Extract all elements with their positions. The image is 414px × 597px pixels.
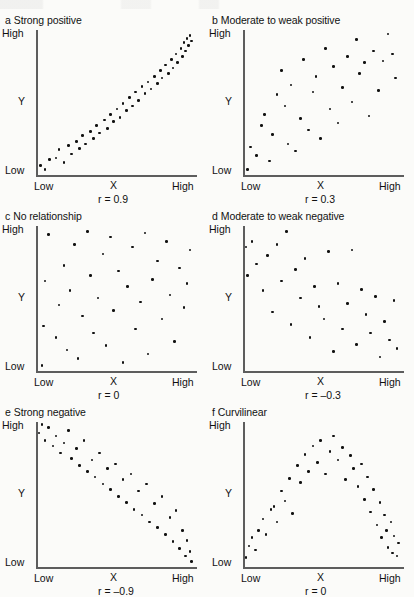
- data-point: [122, 361, 125, 364]
- data-point: [84, 143, 87, 146]
- data-point: [304, 257, 307, 260]
- data-point: [173, 340, 176, 343]
- data-point: [337, 122, 340, 125]
- y-axis-name: Y: [225, 488, 232, 499]
- data-point: [180, 47, 183, 50]
- data-point: [313, 285, 316, 288]
- data-point: [393, 299, 396, 302]
- data-point: [165, 240, 168, 243]
- data-point: [294, 268, 297, 271]
- x-axis-high-label: High: [172, 573, 194, 584]
- data-point: [315, 75, 318, 78]
- y-axis-high-label: High: [209, 420, 231, 431]
- data-point: [63, 161, 66, 164]
- data-point: [391, 53, 394, 56]
- data-point: [161, 495, 164, 498]
- y-axis-high-label: High: [2, 28, 24, 39]
- data-point: [355, 343, 358, 346]
- data-point: [290, 323, 293, 326]
- data-point: [376, 524, 379, 527]
- data-point: [397, 542, 400, 545]
- data-point: [78, 147, 81, 150]
- data-point: [299, 117, 302, 120]
- data-point: [391, 552, 394, 555]
- panel-title-text: No relationship: [13, 210, 82, 222]
- data-point: [164, 533, 167, 536]
- data-point: [271, 133, 274, 136]
- data-point: [246, 274, 249, 277]
- data-point: [153, 75, 156, 78]
- plot-area-b: [243, 30, 403, 175]
- data-point: [105, 344, 108, 347]
- data-point: [131, 246, 134, 249]
- data-point: [122, 102, 125, 105]
- data-point: [263, 113, 266, 116]
- data-point: [139, 301, 142, 304]
- x-axis-name: X: [110, 572, 117, 583]
- data-point: [109, 113, 112, 116]
- panel-letter-d: d: [212, 210, 218, 222]
- y-axis-low-label: Low: [212, 361, 231, 372]
- data-point: [249, 146, 252, 149]
- data-point: [390, 521, 393, 524]
- panel-title-e: eStrong negative: [5, 406, 86, 418]
- data-point: [383, 514, 386, 517]
- data-point: [66, 349, 69, 352]
- data-point: [341, 328, 344, 331]
- data-point: [396, 347, 399, 350]
- data-point: [302, 58, 305, 61]
- data-point: [161, 318, 164, 321]
- data-point: [150, 88, 153, 91]
- data-point: [137, 99, 140, 102]
- x-axis-low-label: Low: [241, 573, 260, 584]
- data-point: [161, 77, 164, 80]
- y-axis-low-label: Low: [5, 361, 24, 372]
- data-point: [147, 81, 150, 84]
- data-point: [169, 516, 172, 519]
- data-point: [137, 490, 140, 493]
- data-point: [128, 96, 131, 99]
- data-point: [287, 143, 290, 146]
- panel-title-b: bModerate to weak positive: [212, 14, 340, 26]
- data-point: [181, 529, 184, 532]
- data-point: [383, 320, 386, 323]
- data-point: [332, 435, 335, 438]
- data-point: [83, 439, 86, 442]
- data-point: [178, 547, 181, 550]
- panel-title-d: dModerate to weak negative: [212, 210, 344, 222]
- plot-area-f: [243, 422, 403, 567]
- data-point: [276, 521, 279, 524]
- x-axis-low-label: Low: [241, 181, 260, 192]
- data-point: [349, 454, 352, 457]
- data-point: [387, 546, 390, 549]
- data-point: [69, 289, 72, 292]
- y-axis-high-label: High: [2, 420, 24, 431]
- data-point: [329, 108, 332, 111]
- y-axis-high-label: High: [209, 224, 231, 235]
- data-point: [189, 550, 192, 553]
- data-point: [393, 535, 396, 538]
- data-point: [374, 295, 377, 298]
- data-point: [288, 477, 291, 480]
- panel-title-text: Moderate to weak negative: [221, 210, 345, 222]
- data-point: [285, 230, 288, 233]
- data-point: [255, 263, 258, 266]
- panel-title-text: Strong negative: [14, 406, 86, 418]
- data-point: [265, 533, 268, 536]
- data-point: [341, 86, 344, 89]
- data-point: [95, 124, 98, 127]
- data-point: [167, 72, 170, 75]
- data-point: [257, 529, 260, 532]
- panel-title-f: fCurvilinear: [212, 406, 267, 418]
- data-point: [119, 116, 122, 119]
- x-axis-name: X: [110, 180, 117, 191]
- data-point: [89, 274, 92, 277]
- data-point: [42, 325, 45, 328]
- data-point: [59, 452, 62, 455]
- data-point: [337, 459, 340, 462]
- data-point: [346, 302, 349, 305]
- data-point: [151, 278, 154, 281]
- data-point: [109, 236, 112, 239]
- data-point: [75, 140, 78, 143]
- data-point: [70, 153, 73, 156]
